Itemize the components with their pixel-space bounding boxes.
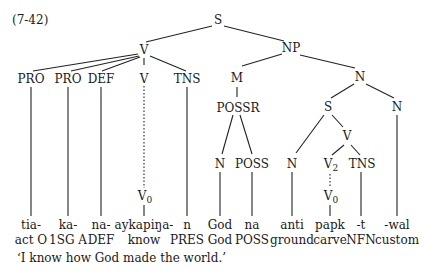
node-v0-know: V0: [138, 189, 152, 207]
node-pro-1: PRO: [18, 72, 45, 86]
node-tns-2: TNS: [349, 157, 376, 171]
free-translation: ‘I know how God made the world.’: [17, 251, 226, 265]
node-np: NP: [282, 41, 301, 55]
morpheme-form: na: [245, 218, 260, 232]
morpheme-gloss: act O: [15, 233, 47, 247]
example-number: (7-42): [12, 13, 48, 27]
node-poss: POSS: [235, 157, 269, 171]
morpheme-gloss: DEF: [88, 233, 115, 247]
node-v-matrix: V: [140, 43, 149, 57]
morpheme-form: tia-: [21, 218, 41, 232]
node-v0-carve: V0: [324, 189, 338, 207]
morpheme-form: na-: [92, 218, 111, 232]
morpheme-gloss: carve: [313, 233, 347, 247]
node-def: DEF: [88, 72, 115, 86]
morpheme-form: n: [183, 218, 191, 232]
node-possr: POSSR: [216, 101, 259, 115]
morpheme-gloss: POSS: [235, 233, 269, 247]
node-n-anti: N: [287, 157, 298, 171]
node-s-root: S: [214, 13, 222, 27]
node-s-inner: S: [324, 100, 332, 114]
morpheme-gloss: know: [128, 233, 161, 247]
node-tns-1: TNS: [174, 72, 201, 86]
morpheme-gloss: custom: [375, 233, 419, 247]
morpheme-gloss: 1SG A: [49, 233, 87, 247]
morpheme-gloss: NFN: [346, 233, 375, 247]
node-v-inner: V: [140, 72, 149, 86]
node-pro-2: PRO: [55, 72, 82, 86]
morpheme-form: ka-: [59, 218, 77, 232]
morpheme-form: aykapiŋa-: [115, 218, 174, 232]
morpheme-gloss: ground: [270, 233, 314, 247]
morpheme-gloss: God: [208, 233, 233, 247]
node-v2: V2: [324, 157, 338, 175]
morpheme-form: anti: [280, 218, 304, 232]
node-m: M: [231, 71, 243, 85]
morpheme-form: papk: [315, 218, 345, 232]
morpheme-gloss: PRES: [170, 233, 204, 247]
node-n-god: N: [215, 157, 226, 171]
node-v-inner-2: V: [343, 129, 352, 143]
morpheme-form: -t: [357, 218, 366, 232]
node-n-custom: N: [392, 100, 403, 114]
morpheme-form: -wal: [384, 218, 409, 232]
node-n-head: N: [355, 70, 366, 84]
morpheme-form: God: [208, 218, 233, 232]
